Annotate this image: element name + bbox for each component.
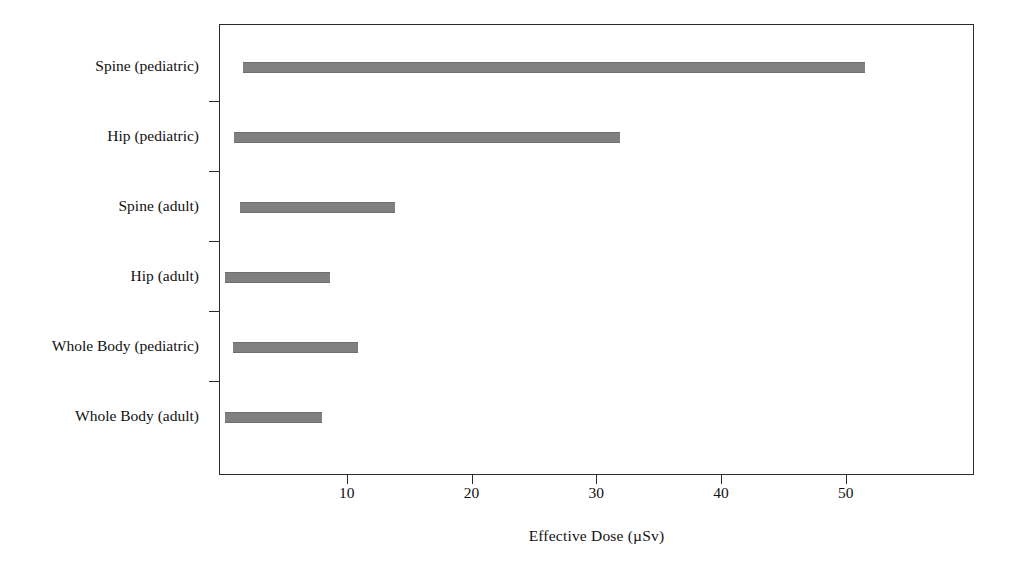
x-axis-tick-label: 10 xyxy=(317,484,377,502)
x-axis-tick xyxy=(596,475,597,484)
y-axis-category-label: Spine (pediatric) xyxy=(0,57,209,75)
bar xyxy=(234,132,619,143)
x-axis-tick xyxy=(347,475,348,484)
x-axis-tick-label: 20 xyxy=(442,484,502,502)
chart-container: Spine (pediatric)Hip (pediatric)Spine (a… xyxy=(0,0,1013,570)
y-axis-category-label: Spine (adult) xyxy=(0,197,209,215)
bar xyxy=(233,342,358,353)
x-axis-tick-label: 30 xyxy=(566,484,626,502)
y-axis-category-label: Hip (pediatric) xyxy=(0,127,209,145)
bar xyxy=(240,202,395,213)
y-axis-category-label: Whole Body (pediatric) xyxy=(0,337,209,355)
x-axis-tick-label: 40 xyxy=(691,484,751,502)
bar xyxy=(225,412,321,423)
bar xyxy=(243,62,866,73)
x-axis-title: Effective Dose (µSv) xyxy=(219,527,974,545)
x-axis-tick xyxy=(721,475,722,484)
y-axis-category-label: Whole Body (adult) xyxy=(0,407,209,425)
x-axis-tick xyxy=(846,475,847,484)
x-axis-tick-label: 50 xyxy=(816,484,876,502)
plot-area xyxy=(219,24,974,475)
y-axis-category-label: Hip (adult) xyxy=(0,267,209,285)
bars-layer xyxy=(220,25,975,476)
y-axis-labels: Spine (pediatric)Hip (pediatric)Spine (a… xyxy=(0,0,209,570)
x-axis-tick xyxy=(472,475,473,484)
bar xyxy=(225,272,330,283)
